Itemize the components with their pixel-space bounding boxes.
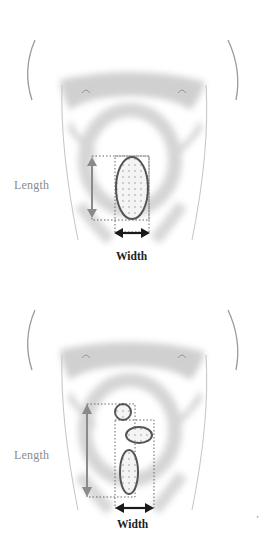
lesion-ellipse: [116, 157, 148, 219]
width-arrow-right-icon: [141, 228, 150, 238]
length-label: Length: [14, 448, 49, 463]
width-arrow-left-icon: [114, 228, 123, 238]
width-label: Width: [117, 518, 148, 530]
width-arrow-left-icon: [115, 503, 124, 513]
torso-illustration: [0, 270, 272, 547]
length-label: Length: [14, 178, 49, 193]
lesion-vertical-ellipse: [120, 450, 138, 494]
panel-multiple-lesions: Length Width ʼ: [0, 270, 272, 547]
torso-illustration: [0, 0, 272, 270]
width-label: Width: [116, 250, 147, 262]
lesion-small-circle: [115, 404, 131, 420]
corner-mark: ʼ: [256, 514, 259, 524]
lesion-horizontal-ellipse: [126, 427, 152, 443]
panel-single-lesion: Length Width: [0, 0, 272, 270]
